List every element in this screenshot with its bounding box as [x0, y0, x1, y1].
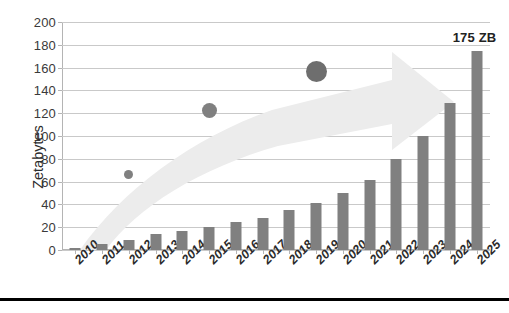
- y-axis-tick-label: 200: [34, 15, 56, 30]
- bar: [150, 234, 161, 250]
- bar: [284, 210, 295, 250]
- bar-slot: 2013: [142, 22, 169, 250]
- bar-slot: 2014: [169, 22, 196, 250]
- bar-slot: 2010: [62, 22, 89, 250]
- plot-area: 020406080100120140160180200 201020112012…: [62, 22, 490, 250]
- y-axis-tick-label: 180: [34, 37, 56, 52]
- footer-caption-clip: [0, 303, 509, 313]
- bar-series: 2010201120122013201420152016201720182019…: [62, 22, 490, 250]
- bar-slot: 2018: [276, 22, 303, 250]
- y-axis-tick-label: 100: [34, 129, 56, 144]
- bar: [257, 218, 268, 250]
- y-axis-tick-label: 120: [34, 106, 56, 121]
- bar-slot: 2016: [223, 22, 250, 250]
- footer-divider: [0, 298, 509, 301]
- bar: [471, 51, 482, 251]
- bar-slot: 2025: [463, 22, 490, 250]
- bar-slot: 2012: [116, 22, 143, 250]
- bar: [177, 231, 188, 250]
- bar-slot: 2024: [437, 22, 464, 250]
- bubble-marker: [202, 103, 217, 118]
- bar-slot: 2011: [89, 22, 116, 250]
- bar: [230, 222, 241, 251]
- bar-slot: 2021: [356, 22, 383, 250]
- bar-slot: 2023: [410, 22, 437, 250]
- bar: [364, 180, 375, 250]
- bar-slot: 2015: [196, 22, 223, 250]
- bar: [311, 203, 322, 250]
- bar-slot: 2019: [303, 22, 330, 250]
- y-axis-tick-label: 40: [41, 197, 56, 212]
- bubble-marker: [306, 61, 327, 82]
- y-axis-tick-label: 140: [34, 83, 56, 98]
- bar: [418, 136, 429, 250]
- y-axis-tick-label: 80: [41, 151, 56, 166]
- y-axis-tick-label: 0: [49, 243, 56, 258]
- bar-slot: 2017: [249, 22, 276, 250]
- data-label: 175 ZB: [453, 30, 497, 45]
- y-axis-tick-mark: [58, 250, 62, 251]
- bar: [204, 227, 215, 250]
- bar: [391, 159, 402, 250]
- y-axis-tick-label: 20: [41, 220, 56, 235]
- bar-slot: 2022: [383, 22, 410, 250]
- y-axis-tick-label: 60: [41, 174, 56, 189]
- bar: [444, 103, 455, 250]
- chart-figure: Zetabytes 020406080100120140160180200 20…: [0, 0, 509, 313]
- y-axis-tick-label: 160: [34, 60, 56, 75]
- bar: [337, 193, 348, 250]
- bar-slot: 2020: [330, 22, 357, 250]
